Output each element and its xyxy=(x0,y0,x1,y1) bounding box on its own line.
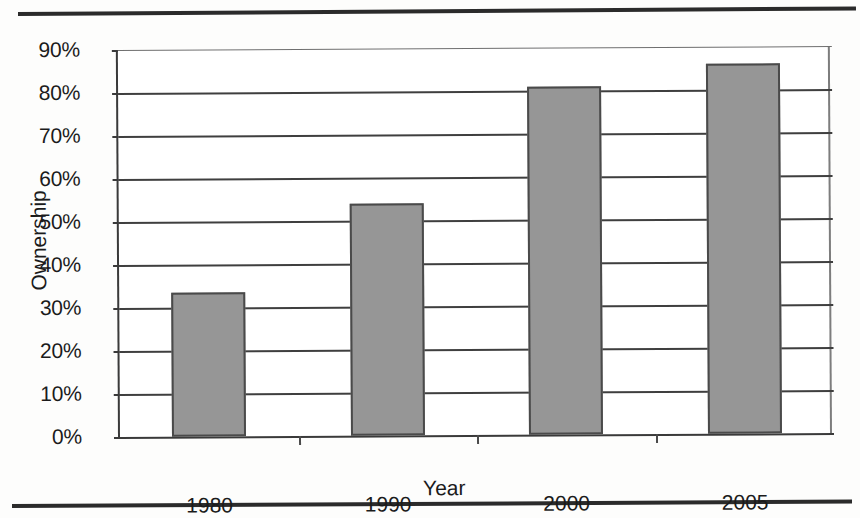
plot-area: 0%10%20%30%40%50%60%70%80%90%19801990200… xyxy=(116,46,832,437)
x-axis-tick xyxy=(655,434,657,443)
y-axis-tick xyxy=(114,437,120,439)
bar-1980 xyxy=(171,292,246,436)
x-axis-tick xyxy=(298,436,300,445)
y-axis-tick xyxy=(113,222,119,224)
plot-skew-wrapper: 0%10%20%30%40%50%60%70%80%90%19801990200… xyxy=(0,0,860,518)
y-axis-title: Ownership xyxy=(26,140,51,340)
y-axis-tick xyxy=(112,136,118,138)
y-axis-tick-label: 80% xyxy=(39,81,81,105)
y-axis-tick-label: 20% xyxy=(40,339,82,363)
y-axis-tick xyxy=(112,50,118,52)
y-axis-tick-label: 90% xyxy=(38,38,80,62)
x-axis-tick xyxy=(477,435,479,444)
bar-2000 xyxy=(527,86,603,435)
y-axis-tick xyxy=(113,308,119,310)
chart-page: 0%10%20%30%40%50%60%70%80%90%19801990200… xyxy=(0,0,860,518)
y-axis-tick xyxy=(114,394,120,396)
x-axis-title-text: Year xyxy=(423,476,466,499)
gridline xyxy=(118,46,832,51)
y-axis-tick xyxy=(112,93,118,95)
y-axis-tick xyxy=(114,351,120,353)
y-axis-tick-label: 10% xyxy=(40,382,82,406)
bar-2005 xyxy=(706,63,782,433)
y-axis-tick xyxy=(113,265,119,267)
bar-1990 xyxy=(349,203,424,436)
y-axis-tick xyxy=(113,179,119,181)
y-axis-tick-label: 0% xyxy=(52,425,82,449)
bar-chart: 0%10%20%30%40%50%60%70%80%90%19801990200… xyxy=(0,0,860,518)
x-axis-title: Year xyxy=(0,474,860,503)
